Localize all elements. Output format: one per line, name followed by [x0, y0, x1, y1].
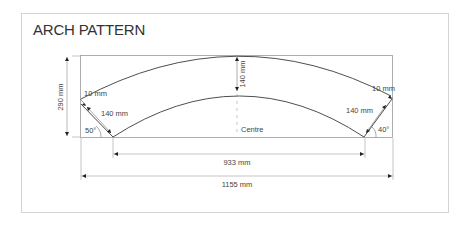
- arrowhead-icon: [235, 57, 239, 61]
- arrowhead-icon: [388, 95, 392, 99]
- left-angle-label: 50°: [85, 126, 96, 135]
- centre-label: Centre: [241, 125, 264, 134]
- left-angle-arc: [96, 126, 101, 137]
- right-angle-arc: [372, 127, 376, 137]
- arrowhead-icon: [65, 132, 69, 136]
- rise-label: 140 mm: [238, 60, 247, 87]
- arrowhead-icon: [82, 174, 86, 178]
- right-angle-label: 40°: [378, 125, 389, 134]
- outer-arc: [81, 56, 391, 99]
- right-width-label: 140 mm: [346, 106, 373, 115]
- inner-span-label: 933 mm: [223, 158, 250, 167]
- height-label: 290 mm: [56, 83, 65, 110]
- arrowhead-icon: [114, 152, 118, 156]
- left-thickness-label: 10 mm: [84, 89, 107, 98]
- total-span-label: 1155 mm: [222, 180, 253, 189]
- arch-pattern-diagram: 290 mm 140 mm 10 mm 140 mm 50° 10 mm 140…: [0, 0, 463, 226]
- left-width-label: 140 mm: [101, 109, 128, 118]
- arrowhead-icon: [360, 152, 364, 156]
- arrowhead-icon: [65, 57, 69, 61]
- right-thickness-label: 10 mm: [372, 84, 395, 93]
- arrowhead-icon: [388, 174, 392, 178]
- inner-arc: [113, 96, 364, 137]
- board-outline: [81, 56, 393, 138]
